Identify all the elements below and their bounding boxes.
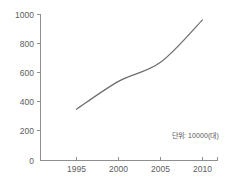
unit-annotation-label: 단위: 10000(대) — [172, 130, 219, 140]
chart-canvas: 1000 800 600 400 200 0 1995 2000 2005 20… — [0, 0, 229, 188]
data-series-line — [77, 20, 203, 109]
y-axis-tick-labels: 1000 800 600 400 200 0 — [15, 10, 34, 166]
y-tick-label-1000: 1000 — [15, 10, 34, 20]
x-tick-label-2010: 2010 — [193, 164, 212, 174]
y-tick-label-0: 0 — [29, 156, 34, 166]
x-axis-ticks — [77, 157, 218, 161]
y-tick-label-200: 200 — [20, 126, 34, 136]
y-tick-label-400: 400 — [20, 97, 34, 107]
x-tick-label-2000: 2000 — [109, 164, 128, 174]
x-tick-label-2005: 2005 — [151, 164, 170, 174]
y-tick-label-800: 800 — [20, 39, 34, 49]
x-tick-label-1995: 1995 — [67, 164, 86, 174]
line-chart-figure: 1000 800 600 400 200 0 1995 2000 2005 20… — [0, 0, 229, 188]
y-axis-ticks — [37, 15, 41, 131]
x-axis-tick-labels: 1995 2000 2005 2010 — [67, 164, 212, 174]
y-tick-label-600: 600 — [20, 68, 34, 78]
